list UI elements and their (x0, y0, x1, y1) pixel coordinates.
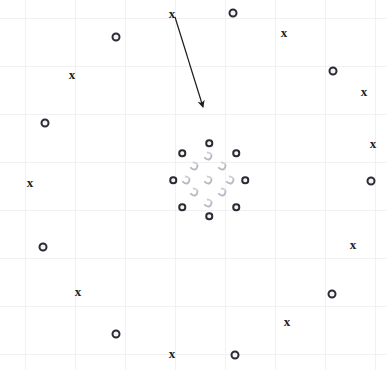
circle-marker (112, 33, 121, 42)
circle-marker (232, 149, 240, 157)
cross-marker: x (75, 285, 82, 298)
circle-marker (169, 176, 177, 184)
arrow-to-cluster (175, 17, 203, 107)
annotation-arrow-layer (0, 0, 387, 370)
cross-marker: x (169, 7, 176, 20)
diagram-canvas: xxxxxxxxxx (0, 0, 387, 370)
circle-marker (232, 203, 240, 211)
circle-marker (205, 139, 213, 147)
cross-marker: x (361, 85, 368, 98)
cross-marker: x (281, 26, 288, 39)
circle-marker (205, 212, 213, 220)
circle-marker (178, 203, 186, 211)
circle-marker (328, 290, 337, 299)
circle-marker (112, 330, 121, 339)
circle-marker (241, 176, 249, 184)
cross-marker: x (169, 347, 176, 360)
cross-marker: x (69, 68, 76, 81)
circle-marker (41, 119, 50, 128)
circle-marker (367, 177, 376, 186)
cross-marker: x (284, 315, 291, 328)
circle-marker (229, 9, 238, 18)
cross-marker: x (27, 176, 34, 189)
circle-marker (231, 351, 240, 360)
cross-marker: x (370, 137, 377, 150)
circle-marker (329, 67, 338, 76)
cross-marker: x (350, 238, 357, 251)
circle-marker (178, 149, 186, 157)
circle-marker (39, 243, 48, 252)
